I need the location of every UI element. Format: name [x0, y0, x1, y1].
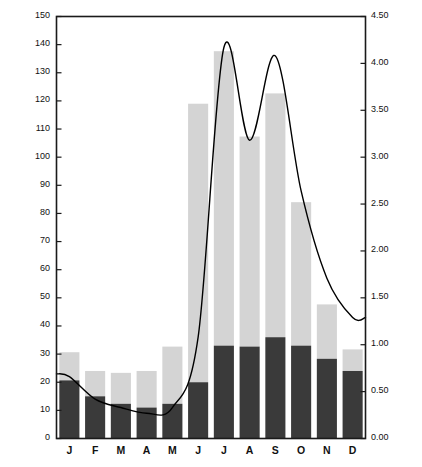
y-tick-label-left: 100: [20, 151, 50, 161]
x-axis-label-J-5: J: [187, 444, 209, 456]
x-axis-label-S-8: S: [264, 444, 286, 456]
bar-segment-max: [265, 93, 285, 337]
y-tick-label-right: 0.50: [371, 385, 405, 395]
bar-segment-max: [137, 371, 157, 408]
y-tick-label-left: 20: [20, 376, 50, 386]
bar-A: [240, 137, 260, 439]
bar-segment-min: [317, 359, 337, 439]
x-axis-label-F-1: F: [84, 444, 106, 456]
bar-segment-min: [291, 346, 311, 439]
bar-segment-max: [317, 304, 337, 358]
bar-segment-min: [214, 346, 234, 439]
bar-segment-max: [240, 137, 260, 347]
x-axis-label-J-6: J: [213, 444, 235, 456]
bar-segment-max: [162, 347, 182, 404]
x-axis-label-A-7: A: [239, 444, 261, 456]
y-tick-label-right: 0.00: [371, 432, 405, 442]
bar-segment-min: [188, 382, 208, 438]
y-tick-label-right: 2.00: [371, 244, 405, 254]
bar-segment-max: [291, 202, 311, 345]
bar-segment-max: [214, 51, 234, 345]
y-tick-label-left: 0: [20, 432, 50, 442]
x-axis-label-J-0: J: [58, 444, 80, 456]
y-tick-label-right: 2.50: [371, 198, 405, 208]
y-tick-label-left: 60: [20, 263, 50, 273]
x-axis-label-M-2: M: [110, 444, 132, 456]
y-tick-label-left: 120: [20, 94, 50, 104]
x-axis-label-N-10: N: [316, 444, 338, 456]
y-tick-label-left: 110: [20, 123, 50, 133]
x-axis-label-M-4: M: [161, 444, 183, 456]
bar-M: [162, 347, 182, 439]
bar-segment-min: [240, 347, 260, 439]
bar-segment-min: [343, 371, 363, 439]
bar-segment-min: [162, 404, 182, 439]
y-tick-label-right: 1.00: [371, 338, 405, 348]
y-tick-label-right: 4.00: [371, 57, 405, 67]
bar-segment-min: [59, 380, 79, 438]
y-tick-label-left: 150: [20, 10, 50, 20]
y-tick-label-left: 30: [20, 348, 50, 358]
bar-N: [317, 304, 337, 438]
x-axis-label-O-9: O: [290, 444, 312, 456]
bar-J: [59, 352, 79, 438]
y-tick-label-right: 4.50: [371, 10, 405, 20]
y-tick-label-left: 50: [20, 291, 50, 301]
chart-container: MEAN MONTHLY DISCHARGE (m³ / SEC. x 1000…: [0, 0, 422, 467]
y-tick-label-right: 3.50: [371, 104, 405, 114]
bar-segment-max: [343, 349, 363, 371]
y-tick-label-right: 3.00: [371, 151, 405, 161]
bar-D: [343, 349, 363, 438]
y-tick-label-right: 1.50: [371, 291, 405, 301]
bar-O: [291, 202, 311, 438]
y-tick-label-left: 70: [20, 235, 50, 245]
bar-segment-max: [111, 373, 131, 404]
y-tick-label-left: 40: [20, 319, 50, 329]
y-tick-label-left: 90: [20, 179, 50, 189]
x-axis-label-A-3: A: [136, 444, 158, 456]
x-axis-label-D-11: D: [342, 444, 364, 456]
bar-F: [85, 371, 105, 439]
y-tick-label-left: 80: [20, 207, 50, 217]
y-tick-label-left: 10: [20, 404, 50, 414]
y-tick-label-left: 140: [20, 38, 50, 48]
bar-S: [265, 93, 285, 438]
y-tick-label-left: 130: [20, 66, 50, 76]
bar-segment-min: [265, 337, 285, 438]
bar-segment-max: [85, 371, 105, 396]
plot-area: [0, 0, 422, 467]
bar-A: [137, 371, 157, 439]
